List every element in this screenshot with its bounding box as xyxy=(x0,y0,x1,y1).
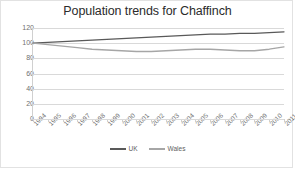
chart-legend: UKWales xyxy=(1,146,294,153)
legend-label: UK xyxy=(129,146,138,153)
x-axis-tick-label: 2011 xyxy=(283,112,295,127)
series-layer xyxy=(33,28,284,119)
legend-item-wales[interactable]: Wales xyxy=(149,146,186,153)
y-axis-tick-mark xyxy=(30,119,33,120)
chart-container: Population trends for Chaffinch 02040608… xyxy=(0,0,293,168)
gridline xyxy=(33,119,284,120)
series-line-uk xyxy=(33,32,284,43)
legend-item-uk[interactable]: UK xyxy=(110,146,138,153)
legend-swatch-icon xyxy=(149,148,165,150)
legend-label: Wales xyxy=(168,146,186,153)
legend-swatch-icon xyxy=(110,148,126,150)
series-line-wales xyxy=(33,43,284,51)
